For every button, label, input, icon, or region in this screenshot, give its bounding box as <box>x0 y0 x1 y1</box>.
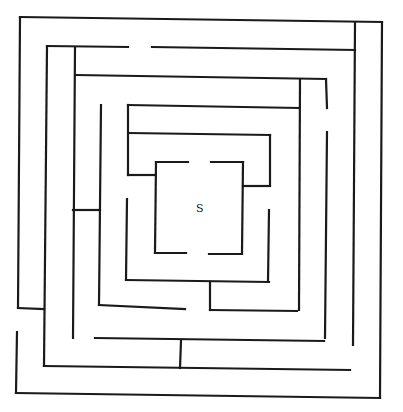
maze-wall <box>326 79 327 108</box>
maze-wall <box>99 105 101 305</box>
maze-wall <box>126 199 127 280</box>
maze-wall <box>95 338 324 341</box>
maze-wall <box>20 17 382 22</box>
maze-wall <box>128 105 299 108</box>
maze-wall <box>73 47 75 338</box>
maze-wall <box>325 132 327 338</box>
maze-wall <box>299 79 300 310</box>
maze-wall <box>353 22 355 345</box>
maze-wall <box>210 310 297 311</box>
maze-wall <box>44 366 350 370</box>
maze-wall <box>180 341 181 368</box>
maze-wall <box>44 46 47 366</box>
maze-wall <box>268 210 269 282</box>
maze-wall <box>152 47 355 50</box>
maze-wall <box>129 133 270 135</box>
maze-wall <box>18 17 20 308</box>
maze-wall <box>99 305 185 309</box>
start-label: S <box>196 202 204 215</box>
maze-wall <box>47 46 128 47</box>
maze-wall <box>242 162 243 253</box>
maze-wall <box>18 308 44 309</box>
maze-wall <box>76 75 326 79</box>
maze-wall <box>16 332 17 393</box>
maze-wall <box>155 162 156 253</box>
maze-wall <box>126 280 269 282</box>
maze-wall <box>16 393 380 398</box>
maze-wall <box>380 22 382 398</box>
maze-diagram: S <box>0 0 403 412</box>
